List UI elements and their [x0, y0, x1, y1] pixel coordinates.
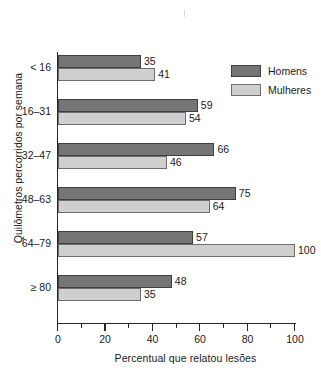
y-category-label-2: 32–47	[0, 149, 51, 161]
bar-homens-16-31	[58, 99, 198, 112]
x-tick-label-40: 40	[147, 333, 159, 345]
bar-homens-lt16	[58, 55, 141, 68]
x-tick-label-100: 100	[286, 333, 304, 345]
bar-value-homens-gte80: 48	[175, 275, 187, 288]
bar-value-mulheres-gte80: 35	[144, 288, 156, 301]
x-tick-20	[104, 324, 105, 331]
legend-item-mulheres: Mulheres	[231, 82, 321, 97]
x-tick-30	[128, 324, 129, 328]
bar-value-mulheres-16-31: 54	[189, 112, 201, 125]
legend-label-mulheres: Mulheres	[268, 84, 311, 96]
x-tick-0	[57, 324, 58, 331]
x-tick-10	[81, 324, 82, 328]
legend-label-homens: Homens	[268, 65, 307, 77]
bar-value-homens-lt16: 35	[144, 55, 156, 68]
x-tick-80	[247, 324, 248, 331]
x-axis-title-text: Percentual que relatou lesões	[65, 352, 257, 364]
bar-value-mulheres-64-79: 100	[298, 244, 316, 257]
bar-mulheres-lt16	[58, 68, 155, 81]
y-category-label-0: < 16	[0, 61, 51, 73]
bar-homens-32-47	[58, 143, 214, 156]
bar-value-homens-64-79: 57	[196, 231, 208, 244]
x-tick-label-20: 20	[99, 333, 111, 345]
x-tick-label-60: 60	[194, 333, 206, 345]
x-tick-90	[270, 324, 271, 328]
bar-value-mulheres-lt16: 41	[158, 68, 170, 81]
bar-value-homens-16-31: 59	[201, 99, 213, 112]
x-axis-title: Percentual que relatou lesões	[0, 352, 321, 364]
y-category-label-5: ≥ 80	[0, 281, 51, 293]
bar-homens-48-63	[58, 187, 236, 200]
bar-mulheres-64-79	[58, 244, 295, 257]
bar-mulheres-gte80	[58, 288, 141, 301]
x-tick-70	[223, 324, 224, 328]
x-tick-100	[294, 324, 295, 331]
bar-homens-gte80	[58, 275, 172, 288]
bar-value-homens-48-63: 75	[239, 187, 251, 200]
chart-legend: Homens Mulheres	[231, 63, 321, 101]
bar-value-mulheres-32-47: 46	[170, 156, 182, 169]
legend-item-homens: Homens	[231, 63, 321, 78]
legend-swatch-mulheres	[231, 84, 261, 96]
x-tick-50	[176, 324, 177, 328]
bar-mulheres-16-31	[58, 112, 186, 125]
bar-mulheres-32-47	[58, 156, 167, 169]
bar-mulheres-48-63	[58, 200, 210, 213]
bar-homens-64-79	[58, 231, 193, 244]
bar-value-mulheres-48-63: 64	[213, 200, 225, 213]
x-tick-40	[152, 324, 153, 331]
x-tick-label-80: 80	[242, 333, 254, 345]
x-tick-60	[199, 324, 200, 331]
legend-swatch-homens	[231, 65, 261, 77]
bar-value-homens-32-47: 66	[217, 143, 229, 156]
scan-artifact	[184, 10, 185, 17]
y-category-label-4: 64–79	[0, 237, 51, 249]
x-tick-label-0: 0	[55, 333, 61, 345]
y-category-label-1: 16–31	[0, 105, 51, 117]
y-category-label-3: 48–63	[0, 193, 51, 205]
bar-chart-figure: 0 20 40 60 80 100 Percentual que relatou…	[0, 0, 321, 373]
